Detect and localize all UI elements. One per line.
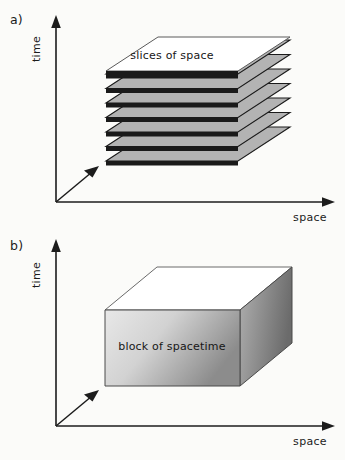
panel-b-time-axis xyxy=(51,239,61,426)
panel-b-space-label: space xyxy=(293,435,327,448)
panel-b: b) xyxy=(0,230,345,460)
panel-a-depth-axis xyxy=(56,166,99,202)
panel-a-time-label: time xyxy=(30,36,43,62)
figure-root: a) xyxy=(0,0,345,460)
spacetime-block xyxy=(105,267,292,386)
panel-b-depth-axis xyxy=(56,390,99,426)
panel-b-time-label: time xyxy=(30,262,43,288)
block-caption: block of spacetime xyxy=(118,340,226,353)
panel-a-space-label: space xyxy=(293,211,327,224)
panel-a-time-axis xyxy=(51,15,61,202)
panel-a: a) xyxy=(0,0,345,230)
panel-a-graphic: slices of space time space xyxy=(0,0,345,230)
panel-b-space-axis xyxy=(56,421,335,431)
panel-b-graphic: block of spacetime time space xyxy=(0,230,345,460)
panel-a-space-axis xyxy=(56,197,335,207)
slices-caption: slices of space xyxy=(130,49,213,62)
